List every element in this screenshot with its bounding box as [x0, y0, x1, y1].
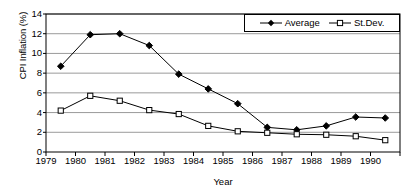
chart-legend: AverageSt.Dev.	[244, 14, 400, 32]
legend-filled-diamond-icon	[260, 18, 282, 28]
legend-label: Average	[285, 18, 320, 28]
data-point-marker	[383, 138, 388, 143]
legend-open-square-icon	[329, 18, 351, 28]
series-line	[61, 34, 386, 130]
data-point-marker	[176, 111, 181, 116]
data-point-marker	[324, 132, 329, 137]
data-point-marker	[323, 123, 330, 130]
data-point-marker	[265, 130, 270, 135]
data-point-marker	[382, 115, 389, 122]
data-point-marker	[116, 30, 123, 37]
x-axis-tick-label: 1990	[354, 156, 388, 166]
data-point-marker	[352, 114, 359, 121]
data-point-marker	[205, 86, 212, 93]
data-point-marker	[294, 132, 299, 137]
legend-entry: St.Dev.	[329, 18, 384, 28]
cpi-inflation-line-chart: CPI Inflation (%) 02468101214 Year Avera…	[0, 0, 415, 195]
data-point-marker	[147, 108, 152, 113]
data-point-marker	[88, 93, 93, 98]
x-axis-title: Year	[46, 176, 400, 187]
legend-entry: Average	[260, 18, 320, 28]
legend-label: St.Dev.	[354, 18, 384, 28]
series-line	[61, 96, 386, 140]
data-point-marker	[353, 134, 358, 139]
data-point-marker	[206, 123, 211, 128]
data-point-marker	[117, 98, 122, 103]
data-point-marker	[235, 129, 240, 134]
data-point-marker	[58, 108, 63, 113]
